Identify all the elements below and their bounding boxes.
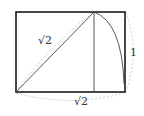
bottom-label: √2 bbox=[74, 95, 88, 108]
compass-arc bbox=[94, 12, 124, 84]
diagonal-line bbox=[16, 12, 94, 92]
dashed-arc-bottom bbox=[16, 93, 124, 101]
right-label: 1 bbox=[130, 46, 137, 59]
outer-rectangle bbox=[16, 12, 125, 92]
diagram-canvas: √2 √2 1 bbox=[0, 0, 144, 116]
diagonal-label: √2 bbox=[38, 34, 52, 47]
